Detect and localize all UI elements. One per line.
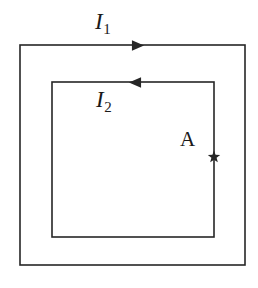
- current-subscript-i1: 1: [103, 21, 111, 37]
- point-a-label: A: [180, 129, 195, 150]
- circuit-diagram-svg: [0, 0, 258, 288]
- outer-current-arrow-icon: [132, 40, 144, 50]
- current-label-i1: I1: [95, 10, 111, 37]
- inner-current-arrow-icon: [129, 77, 141, 87]
- figure-container: I1 I2 A: [0, 0, 258, 288]
- current-label-i2: I2: [96, 88, 112, 115]
- current-symbol-i2: I: [96, 87, 104, 112]
- current-subscript-i2: 2: [104, 99, 112, 115]
- inner-square-loop: [52, 82, 214, 237]
- current-symbol-i1: I: [95, 9, 103, 34]
